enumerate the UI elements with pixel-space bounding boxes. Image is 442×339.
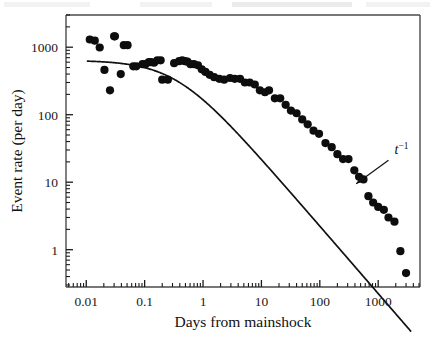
y-tick-label: 1000 [31, 40, 58, 55]
data-point [328, 143, 336, 151]
aftershock-decay-chart: t−1 0.010.11101001000 1101001000 Days fr… [0, 0, 442, 339]
x-tick-label: 100 [310, 294, 331, 309]
data-point [350, 166, 358, 174]
data-point [396, 247, 404, 255]
data-point [390, 218, 398, 226]
x-tick-label: 1 [200, 294, 207, 309]
y-axis-ticks [66, 15, 73, 285]
data-point [276, 94, 284, 102]
omori-fit-curve [87, 61, 410, 331]
plot-frame [66, 15, 420, 287]
data-point [111, 32, 119, 40]
x-tick-label: 0.01 [74, 294, 98, 309]
y-axis-title: Event rate (per day) [8, 89, 26, 213]
x-tick-label: 1000 [365, 294, 392, 309]
data-point-group [86, 32, 410, 277]
x-tick-label-group: 0.010.11101001000 [74, 294, 392, 309]
data-point [344, 155, 352, 163]
x-tick-label: 0.1 [136, 294, 153, 309]
data-point [96, 43, 104, 51]
x-tick-label: 10 [255, 294, 269, 309]
data-point [380, 206, 388, 214]
annotation-exponent-text: −1 [398, 141, 408, 151]
data-point [304, 120, 312, 128]
data-point [164, 76, 172, 84]
data-point [315, 130, 323, 138]
y-tick-label: 100 [38, 108, 59, 123]
scan-watermark [200, 150, 203, 178]
data-point [157, 56, 165, 64]
power-law-annotation: t−1 [356, 141, 409, 184]
data-point [123, 41, 131, 49]
x-axis-title: Days from mainshock [175, 313, 312, 330]
y-tick-label: 1 [51, 243, 58, 258]
data-point [117, 70, 125, 78]
data-point [106, 86, 114, 94]
y-tick-label-group: 1101001000 [31, 40, 58, 257]
figure-root: t−1 0.010.11101001000 1101001000 Days fr… [0, 0, 442, 339]
data-point [292, 109, 300, 117]
annotation-label: t−1 [395, 141, 409, 157]
data-point [91, 37, 99, 45]
data-point [265, 86, 273, 94]
data-point [402, 269, 410, 277]
y-tick-label: 10 [45, 175, 59, 190]
data-point [100, 66, 108, 74]
